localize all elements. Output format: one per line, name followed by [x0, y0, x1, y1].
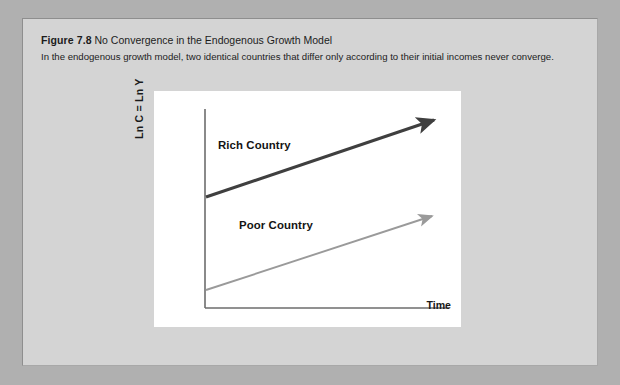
caption-title-line: Figure 7.8 No Convergence in the Endogen…	[41, 33, 573, 47]
figure-card: Figure 7.8 No Convergence in the Endogen…	[22, 18, 598, 366]
plot-panel: Ln C = Ln Y Time Rich Country Poor Count…	[154, 91, 461, 327]
rich-country-line	[206, 120, 434, 197]
figure-number: Figure 7.8	[41, 34, 92, 46]
poor-country-label: Poor Country	[239, 219, 313, 231]
chart-svg	[154, 91, 461, 327]
y-axis-label: Ln C = Ln Y	[133, 78, 145, 139]
rich-country-label: Rich Country	[218, 139, 291, 151]
x-axis-label: Time	[426, 299, 451, 311]
figure-title: No Convergence in the Endogenous Growth …	[95, 34, 333, 46]
figure-description: In the endogenous growth model, two iden…	[41, 50, 561, 63]
figure-caption: Figure 7.8 No Convergence in the Endogen…	[41, 33, 573, 63]
